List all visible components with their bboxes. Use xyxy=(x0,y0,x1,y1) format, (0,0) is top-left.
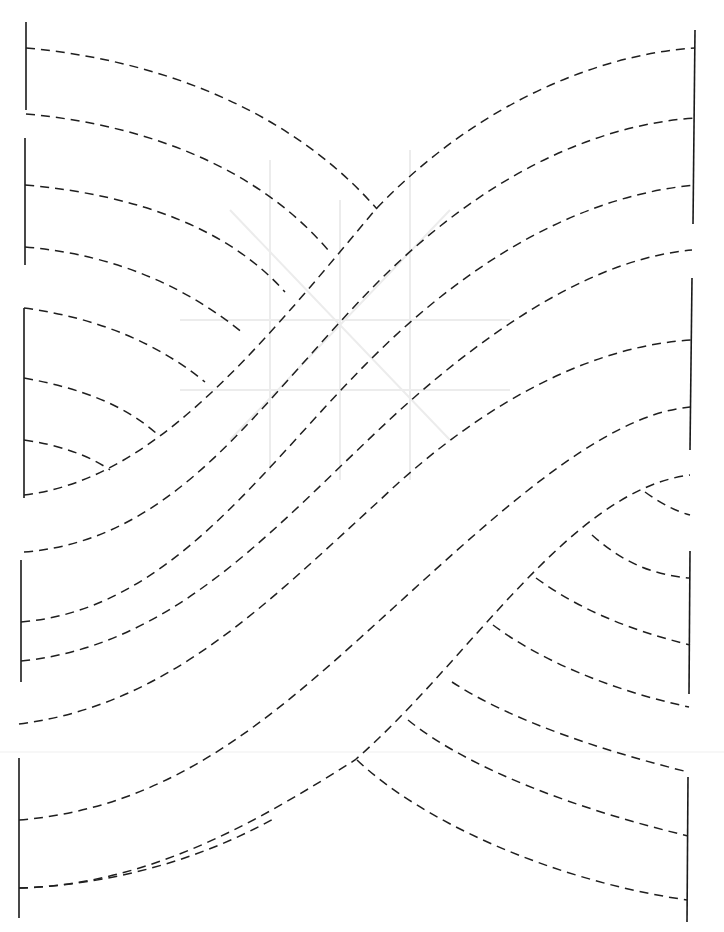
band-seam-line xyxy=(24,48,695,495)
top-left-arc-fan xyxy=(24,48,377,470)
fan-arc-line xyxy=(408,720,688,836)
right-edge-bar xyxy=(690,278,692,450)
band-seam-line xyxy=(19,475,690,888)
right-edge-bar xyxy=(689,551,690,694)
right-edge-bar xyxy=(693,30,695,224)
fan-arc-line xyxy=(357,760,687,900)
fan-arc-line xyxy=(452,682,688,772)
diagonal-band-seams xyxy=(19,48,695,888)
fan-arc-line xyxy=(645,492,690,515)
background-show-through-pattern xyxy=(180,150,510,480)
band-seam-line xyxy=(19,407,690,820)
band-seam-line xyxy=(21,250,692,661)
quilting-template-diagram xyxy=(0,0,724,932)
edge-bars xyxy=(19,22,695,922)
fan-arc-line xyxy=(536,578,690,645)
fan-arc-line xyxy=(24,440,110,470)
bottom-right-arc-fan xyxy=(357,492,690,900)
fan-arc-line xyxy=(592,535,690,578)
fan-arc-line xyxy=(24,308,205,382)
fan-arc-line xyxy=(26,48,377,209)
fan-arc-line xyxy=(24,378,157,434)
fan-arc-line xyxy=(25,185,285,292)
band-seam-line xyxy=(19,340,692,724)
band-seam-line xyxy=(24,118,695,552)
band-seam-line xyxy=(21,185,695,622)
right-edge-bar xyxy=(687,777,688,922)
fan-arc-line xyxy=(26,114,328,250)
